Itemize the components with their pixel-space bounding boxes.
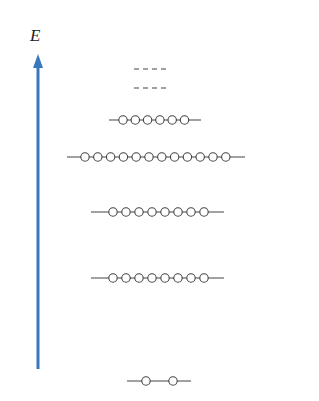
electron-circle-icon [174, 274, 182, 282]
electron-circle-icon [148, 274, 156, 282]
electron-circle-icon [106, 153, 114, 161]
energy-level-diagram [0, 0, 319, 401]
arrow-up-icon [33, 54, 43, 68]
electron-circle-icon [135, 208, 143, 216]
energy-level-level-3 [91, 208, 224, 216]
electron-circle-icon [81, 153, 89, 161]
energy-levels [67, 69, 245, 385]
electron-circle-icon [168, 116, 176, 124]
electron-circle-icon [209, 153, 217, 161]
electron-circle-icon [122, 208, 130, 216]
electron-circle-icon [132, 153, 140, 161]
electron-circle-icon [109, 274, 117, 282]
electron-circle-icon [119, 153, 127, 161]
electron-circle-icon [145, 153, 153, 161]
electron-circle-icon [169, 377, 177, 385]
electron-circle-icon [161, 208, 169, 216]
electron-circle-icon [200, 208, 208, 216]
energy-level-level-4 [67, 153, 245, 161]
electron-circle-icon [119, 116, 127, 124]
electron-circle-icon [143, 116, 151, 124]
electron-circle-icon [161, 274, 169, 282]
electron-circle-icon [200, 274, 208, 282]
electron-circle-icon [109, 208, 117, 216]
electron-circle-icon [187, 208, 195, 216]
electron-circle-icon [131, 116, 139, 124]
electron-circle-icon [156, 116, 164, 124]
electron-circle-icon [148, 208, 156, 216]
electron-circle-icon [222, 153, 230, 161]
energy-level-level-5 [109, 116, 201, 124]
electron-circle-icon [174, 208, 182, 216]
energy-axis-arrow-icon [33, 54, 43, 369]
electron-circle-icon [196, 153, 204, 161]
electron-circle-icon [94, 153, 102, 161]
electron-circle-icon [158, 153, 166, 161]
electron-circle-icon [187, 274, 195, 282]
energy-level-ground [127, 377, 191, 385]
electron-circle-icon [170, 153, 178, 161]
electron-circle-icon [180, 116, 188, 124]
energy-level-level-2 [91, 274, 224, 282]
electron-circle-icon [122, 274, 130, 282]
electron-circle-icon [135, 274, 143, 282]
electron-circle-icon [142, 377, 150, 385]
electron-circle-icon [183, 153, 191, 161]
